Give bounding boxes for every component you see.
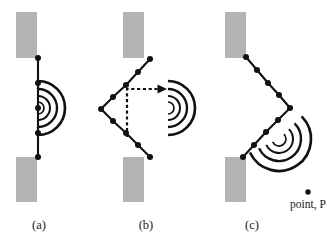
panel-a-wavefront-arcs bbox=[38, 81, 65, 135]
chain-dot-3 bbox=[265, 80, 271, 86]
chain-dot-7 bbox=[123, 130, 129, 136]
panel-c-wavefront-arcs bbox=[250, 116, 311, 171]
barrier-bottom bbox=[123, 157, 144, 202]
chain-line bbox=[243, 57, 290, 157]
barrier-bottom bbox=[225, 157, 246, 202]
chain-dot-1 bbox=[35, 55, 41, 61]
chain-dot-7 bbox=[263, 129, 269, 135]
panel-c: point, P (c) bbox=[225, 12, 326, 232]
wave-arc-1 bbox=[168, 102, 174, 114]
panel-b-wavefront-arcs bbox=[168, 81, 195, 135]
chain-dot-3 bbox=[123, 82, 129, 88]
panel-a: (a) bbox=[16, 12, 65, 232]
chain-dot-5 bbox=[287, 105, 293, 111]
chain-dot-9 bbox=[147, 154, 153, 160]
wave-arc-4 bbox=[250, 116, 311, 171]
chain-dot-8 bbox=[135, 142, 141, 148]
chain-line bbox=[101, 59, 150, 157]
panel-b-motion-arrow bbox=[127, 84, 167, 137]
wavefront-slit-diagram: (a) (b) point, P (c) bbox=[0, 0, 327, 249]
chain-dot-9 bbox=[240, 154, 246, 160]
panel-c-chain bbox=[240, 54, 293, 160]
barrier-top bbox=[123, 12, 144, 58]
chain-dot-1 bbox=[147, 56, 153, 62]
dashed-motion-path bbox=[127, 89, 159, 137]
wave-arc-1 bbox=[273, 134, 286, 146]
panel-c-caption: (c) bbox=[245, 218, 259, 232]
wave-arc-2 bbox=[266, 129, 293, 153]
chain-dot-4 bbox=[276, 92, 282, 98]
arrow-head-icon bbox=[158, 84, 168, 93]
chain-dot-5 bbox=[35, 154, 41, 160]
chain-dot-3 bbox=[35, 105, 41, 111]
figure-root: (a) (b) point, P (c) bbox=[0, 0, 327, 249]
point-p-label: point, P bbox=[290, 198, 326, 211]
chain-dot-2 bbox=[135, 69, 141, 75]
panel-a-chain bbox=[35, 55, 41, 160]
panel-b-caption: (b) bbox=[139, 218, 154, 232]
wave-arc-3 bbox=[168, 89, 187, 127]
chain-dot-8 bbox=[251, 142, 257, 148]
chain-dot-6 bbox=[110, 118, 116, 124]
chain-dot-6 bbox=[275, 117, 281, 123]
chain-dot-2 bbox=[35, 80, 41, 86]
chain-dot-2 bbox=[254, 67, 260, 73]
panel-b-chain bbox=[98, 56, 153, 160]
barrier-top bbox=[225, 12, 246, 58]
chain-dot-1 bbox=[243, 54, 249, 60]
chain-dot-4 bbox=[110, 94, 116, 100]
panel-b: (b) bbox=[98, 12, 195, 232]
chain-dot-5 bbox=[98, 106, 104, 112]
chain-dot-4 bbox=[35, 130, 41, 136]
panel-a-caption: (a) bbox=[32, 218, 46, 232]
barrier-bottom bbox=[16, 157, 37, 202]
panel-a-barriers bbox=[16, 12, 37, 202]
panel-c-barriers bbox=[225, 12, 246, 202]
point-p-marker bbox=[305, 189, 310, 194]
barrier-top bbox=[16, 12, 37, 58]
